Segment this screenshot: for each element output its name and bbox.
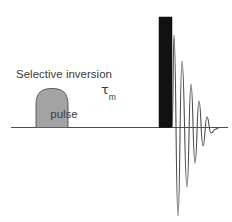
tau-symbol: τ <box>101 82 109 97</box>
pulse-sequence-diagram: Selective inversion pulse τm <box>0 0 232 222</box>
hard-pulse-rectangle <box>159 17 172 128</box>
mixing-time-label: τm <box>101 83 116 100</box>
selective-pulse-label-line2: pulse <box>8 108 120 121</box>
tau-subscript-m: m <box>109 92 116 102</box>
selective-pulse-label-line1: Selective inversion <box>8 68 120 81</box>
free-induction-decay-trace <box>172 35 219 216</box>
